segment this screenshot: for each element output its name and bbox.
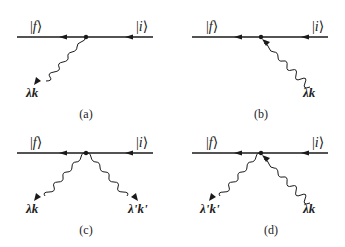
photon-label: λk: [25, 85, 39, 100]
arrow-outgoing-icon: [131, 193, 138, 201]
arrow-incoming-icon: [262, 155, 270, 162]
ket-initial: |i⟩: [136, 19, 148, 34]
panel-caption: (a): [79, 107, 92, 121]
photon-wavy-line: [264, 43, 310, 88]
ket-final: |f⟩: [30, 19, 42, 34]
arrow-left-icon: [59, 151, 67, 156]
arrow-left-icon: [125, 151, 133, 156]
photon-label-left: λ'k': [199, 201, 220, 216]
photon-label: λk: [302, 85, 316, 100]
arrow-left-icon: [301, 151, 309, 156]
photon-label-left: λk: [25, 201, 39, 216]
arrow-outgoing-icon: [34, 193, 41, 201]
photon-label-right: λk: [302, 201, 316, 216]
panel-b: |f⟩ |i⟩ λk (b): [192, 19, 328, 121]
arrow-left-icon: [234, 35, 242, 40]
ket-final: |f⟩: [206, 135, 218, 150]
photon-wavy-line-left: [44, 153, 86, 196]
photon-wavy-line: [46, 37, 86, 81]
arrow-left-icon: [234, 151, 242, 156]
feynman-diagram-figure: |f⟩ |i⟩ λk (a) |f⟩ |i⟩ λk (b) |f⟩ |i⟩ λk…: [0, 0, 345, 247]
panel-a: |f⟩ |i⟩ λk (a): [17, 19, 153, 121]
arrow-left-icon: [125, 35, 133, 40]
photon-label-right: λ'k': [127, 201, 148, 216]
arrow-left-icon: [59, 35, 67, 40]
vertex-dot: [259, 35, 263, 39]
ket-final: |f⟩: [206, 19, 218, 34]
photon-wavy-line-right: [264, 159, 310, 204]
ket-initial: |i⟩: [312, 19, 324, 34]
photon-wavy-line-left: [219, 153, 261, 196]
panel-caption: (d): [264, 223, 278, 237]
panel-c: |f⟩ |i⟩ λk λ'k' (c): [17, 135, 153, 237]
panel-d: |f⟩ |i⟩ λ'k' λk (d): [192, 135, 328, 237]
ket-initial: |i⟩: [136, 135, 148, 150]
ket-final: |f⟩: [30, 135, 42, 150]
panel-caption: (b): [254, 107, 268, 121]
panel-caption: (c): [79, 223, 92, 237]
photon-wavy-line-right: [86, 153, 128, 196]
arrow-incoming-icon: [262, 39, 270, 46]
arrow-outgoing-icon: [34, 77, 41, 85]
arrow-outgoing-icon: [209, 193, 216, 201]
arrow-left-icon: [301, 35, 309, 40]
ket-initial: |i⟩: [312, 135, 324, 150]
